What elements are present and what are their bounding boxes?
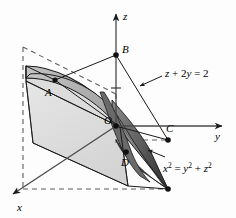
point-O-dot bbox=[113, 123, 119, 129]
figure-canvas: z y x A B C D O bbox=[0, 0, 236, 218]
axis-label-x: x bbox=[16, 201, 22, 213]
point-C-label: C bbox=[166, 122, 174, 134]
cone-vertex-dot bbox=[165, 186, 171, 192]
math-figure: z y x A B C D O bbox=[0, 0, 236, 218]
point-D-label: D bbox=[120, 156, 129, 168]
axis-label-y: y bbox=[214, 130, 220, 142]
point-B-label: B bbox=[122, 43, 129, 55]
plane-equation-text: z + 2y = 2 bbox=[164, 67, 209, 79]
point-D-dot bbox=[123, 149, 129, 155]
plane-equation-arrow bbox=[140, 76, 162, 86]
plane-equation-callout: z + 2y = 2 bbox=[140, 67, 209, 86]
point-C-dot bbox=[165, 137, 171, 143]
point-cone-vertex bbox=[165, 186, 171, 192]
point-C: C bbox=[165, 122, 174, 143]
point-A-dot bbox=[52, 77, 57, 82]
axis-label-z: z bbox=[122, 10, 128, 22]
point-B-dot bbox=[113, 52, 119, 58]
point-A-label: A bbox=[44, 86, 52, 98]
point-O-label: O bbox=[104, 114, 112, 126]
cone-equation-text: x2 = y2 + z2 bbox=[162, 161, 212, 174]
